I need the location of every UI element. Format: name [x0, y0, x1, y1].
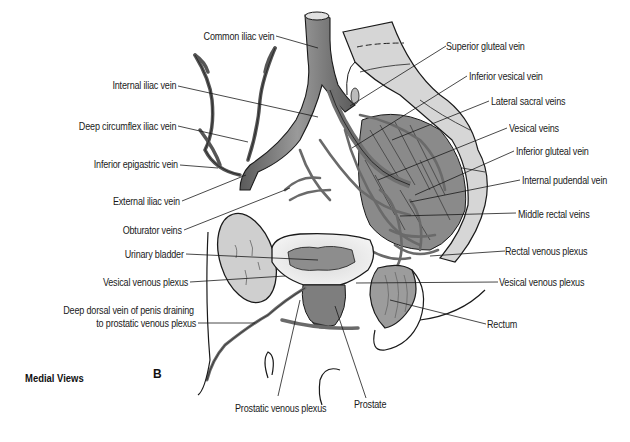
label-vesical-veins: Vesical veins: [509, 122, 559, 134]
label-vesical-venous-plexus-left: Vesical venous plexus: [103, 276, 188, 288]
label-inferior-gluteal-vein: Inferior gluteal vein: [516, 145, 589, 157]
label-inferior-epigastric-vein: Inferior epigastric vein: [94, 158, 178, 170]
label-common-iliac-vein: Common iliac vein: [203, 30, 274, 42]
label-rectum: Rectum: [487, 318, 517, 330]
label-vesical-venous-plexus-right: Vesical venous plexus: [499, 276, 584, 288]
label-internal-pudendal-vein: Internal pudendal vein: [522, 174, 607, 186]
label-deep-dorsal-vein-line2: to prostatic venous plexus: [96, 317, 196, 329]
anatomy-figure: Common iliac vein Internal iliac vein De…: [0, 0, 630, 442]
label-lateral-sacral-veins: Lateral sacral veins: [491, 95, 565, 107]
panel-letter: B: [153, 367, 162, 381]
label-urinary-bladder: Urinary bladder: [125, 248, 184, 260]
label-rectal-venous-plexus: Rectal venous plexus: [505, 245, 587, 257]
label-internal-iliac-vein: Internal iliac vein: [112, 79, 176, 91]
label-middle-rectal-veins: Middle rectal veins: [518, 208, 590, 220]
label-prostate: Prostate: [354, 398, 386, 410]
label-prostatic-venous-plexus: Prostatic venous plexus: [235, 402, 326, 414]
label-deep-dorsal-vein-line1: Deep dorsal vein of penis draining: [63, 304, 194, 316]
label-deep-circumflex-iliac-vein: Deep circumflex iliac vein: [79, 120, 176, 132]
pelvic-veins-illustration: [0, 0, 630, 442]
label-obturator-veins: Obturator veins: [123, 224, 182, 236]
label-external-iliac-vein: External iliac vein: [113, 195, 180, 207]
view-caption: Medial Views: [25, 372, 84, 384]
label-superior-gluteal-vein: Superior gluteal vein: [446, 40, 525, 52]
label-inferior-vesical-vein: Inferior vesical vein: [469, 70, 543, 82]
